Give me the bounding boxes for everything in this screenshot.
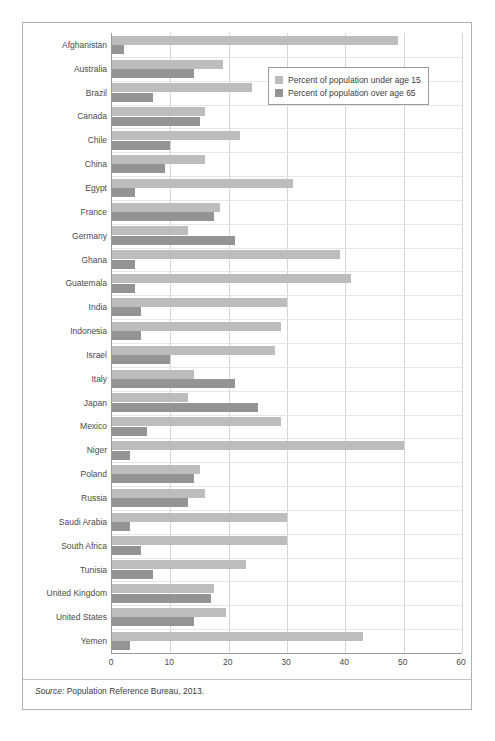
bar <box>112 560 246 569</box>
legend-item-over-65: Percent of population over age 65 <box>275 86 421 99</box>
category-label: Yemen <box>23 636 107 646</box>
bar <box>112 546 141 555</box>
bar <box>112 570 153 579</box>
category-label: Germany <box>23 231 107 241</box>
bar-group <box>112 581 462 605</box>
bar-group <box>112 33 462 57</box>
x-tick-label: 20 <box>223 657 232 667</box>
bar <box>112 474 194 483</box>
legend-item-under-15: Percent of population under age 15 <box>275 73 421 86</box>
bar <box>112 307 141 316</box>
category-label: India <box>23 302 107 312</box>
category-label: Tunisia <box>23 565 107 575</box>
bar <box>112 236 235 245</box>
bar <box>112 298 287 307</box>
category-label: France <box>23 207 107 217</box>
bar <box>112 417 281 426</box>
bar <box>112 36 398 45</box>
bar-group <box>112 295 462 319</box>
bar <box>112 346 275 355</box>
bar-group <box>112 510 462 534</box>
bar <box>112 465 200 474</box>
category-label: China <box>23 159 107 169</box>
category-label: Canada <box>23 111 107 121</box>
category-label: Saudi Arabia <box>23 517 107 527</box>
category-label: Japan <box>23 398 107 408</box>
legend-label-under-15: Percent of population under age 15 <box>288 75 421 85</box>
category-label: Poland <box>23 469 107 479</box>
bar-group <box>112 629 462 653</box>
x-tick-label: 0 <box>109 657 114 667</box>
bar <box>112 131 240 140</box>
category-label: Italy <box>23 374 107 384</box>
category-label: Ghana <box>23 255 107 265</box>
bar <box>112 60 223 69</box>
x-tick-label: 40 <box>340 657 349 667</box>
category-label: Chile <box>23 135 107 145</box>
bar-group <box>112 105 462 129</box>
bar <box>112 498 188 507</box>
x-tick-label: 60 <box>456 657 465 667</box>
bar <box>112 83 252 92</box>
source-note: Source: Population Reference Bureau, 201… <box>35 686 204 696</box>
bar <box>112 69 194 78</box>
category-label: South Africa <box>23 541 107 551</box>
bar <box>112 489 205 498</box>
bar <box>112 513 287 522</box>
chart-legend: Percent of population under age 15 Perce… <box>268 67 429 105</box>
category-label: Australia <box>23 64 107 74</box>
bar <box>112 393 188 402</box>
bar <box>112 164 165 173</box>
bar <box>112 250 340 259</box>
bar <box>112 522 130 531</box>
bar-group <box>112 367 462 391</box>
bar-group <box>112 438 462 462</box>
source-label: Source: <box>35 686 64 696</box>
bar <box>112 403 258 412</box>
bar <box>112 117 200 126</box>
bar-group <box>112 176 462 200</box>
bar-group <box>112 486 462 510</box>
x-tick-label: 50 <box>398 657 407 667</box>
bar <box>112 331 141 340</box>
bar <box>112 536 287 545</box>
x-axis-ticks: 0102030405060 <box>111 657 461 673</box>
bar <box>112 141 170 150</box>
plot-wrapper: AfghanistanAustraliaBrazilCanadaChileChi… <box>23 23 471 709</box>
bar-group <box>112 271 462 295</box>
bar <box>112 45 124 54</box>
category-label: Mexico <box>23 421 107 431</box>
bar-group <box>112 534 462 558</box>
bar <box>112 93 153 102</box>
bar-group <box>112 343 462 367</box>
chart-figure: AfghanistanAustraliaBrazilCanadaChileChi… <box>22 22 472 710</box>
bar <box>112 451 130 460</box>
bar-group <box>112 415 462 439</box>
bar <box>112 379 235 388</box>
bar <box>112 594 211 603</box>
legend-label-over-65: Percent of population over age 65 <box>288 88 416 98</box>
source-text: Population Reference Bureau, 2013. <box>67 686 205 696</box>
category-label: Egypt <box>23 183 107 193</box>
category-label: Guatemala <box>23 278 107 288</box>
bar <box>112 322 281 331</box>
plot-area <box>111 33 462 654</box>
bar <box>112 226 188 235</box>
bar <box>112 355 170 364</box>
source-divider <box>23 679 471 680</box>
x-tick-label: 10 <box>165 657 174 667</box>
bar <box>112 284 135 293</box>
bar <box>112 370 194 379</box>
bar <box>112 617 194 626</box>
bar-group <box>112 319 462 343</box>
category-label: Israel <box>23 350 107 360</box>
x-tick-label: 30 <box>281 657 290 667</box>
bar-group <box>112 128 462 152</box>
bar-group <box>112 224 462 248</box>
bar-group <box>112 152 462 176</box>
bar-group <box>112 462 462 486</box>
bar <box>112 608 226 617</box>
category-label: Russia <box>23 493 107 503</box>
legend-swatch-icon-under-15 <box>275 76 283 84</box>
legend-swatch-icon-over-65 <box>275 89 283 97</box>
